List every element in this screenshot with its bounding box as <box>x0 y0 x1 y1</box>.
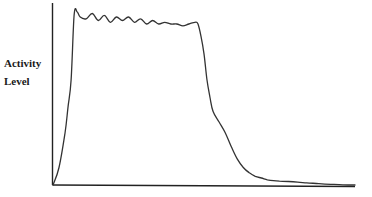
chart-plot-area <box>0 0 372 197</box>
activity-curve <box>53 9 355 185</box>
x-axis <box>53 185 356 187</box>
